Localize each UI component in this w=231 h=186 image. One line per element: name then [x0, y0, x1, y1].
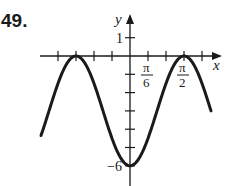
y-axis: [125, 14, 135, 186]
svg-text:6: 6: [143, 75, 150, 90]
x-tick-label-pi-over-2: π 2: [177, 60, 189, 90]
svg-text:π: π: [179, 60, 186, 75]
y-axis-label: y: [113, 11, 122, 27]
svg-text:2: 2: [179, 75, 186, 90]
y-tick-label-1: 1: [116, 31, 123, 46]
x-tick-label-pi-over-6: π 6: [141, 60, 153, 90]
svg-text:π: π: [143, 60, 150, 75]
x-axis-label: x: [212, 57, 220, 73]
sinusoid-chart: y x 1 −6 π 6 π 2: [0, 0, 231, 186]
x-axis: [40, 51, 222, 61]
y-axis-arrow-icon: [126, 14, 134, 24]
y-tick-label-neg6: −6: [107, 159, 122, 174]
